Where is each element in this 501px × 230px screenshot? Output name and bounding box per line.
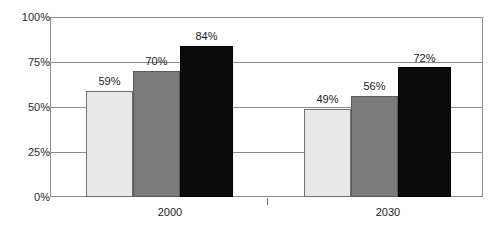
bar-2000-series-1[interactable] (86, 91, 133, 197)
bar-chart: 100% 75% 50% 25% 0% 59% 70% 84% 49% 56% … (0, 0, 501, 230)
bar-label-2000-series-2: 70% (133, 56, 180, 67)
bar-label-2030-series-2: 56% (351, 81, 398, 92)
bar-2000-series-3[interactable] (180, 46, 233, 197)
x-axis-separator-tick (267, 198, 268, 205)
x-axis-category-label-2030: 2030 (348, 207, 428, 218)
bar-label-2000-series-3: 84% (180, 31, 233, 42)
bar-2030-series-1[interactable] (304, 109, 351, 197)
bars-layer (51, 18, 482, 197)
y-axis: 100% 75% 50% 25% 0% (0, 0, 50, 230)
bar-2000-series-2[interactable] (133, 71, 180, 197)
x-axis-category-label-2000: 2000 (130, 207, 210, 218)
bar-label-2000-series-1: 59% (86, 76, 133, 87)
bar-2030-series-3[interactable] (398, 67, 451, 197)
y-axis-tick-mark-0 (44, 197, 50, 198)
bar-label-2030-series-3: 72% (398, 53, 451, 64)
bar-2030-series-2[interactable] (351, 96, 398, 197)
bar-label-2030-series-1: 49% (304, 94, 351, 105)
